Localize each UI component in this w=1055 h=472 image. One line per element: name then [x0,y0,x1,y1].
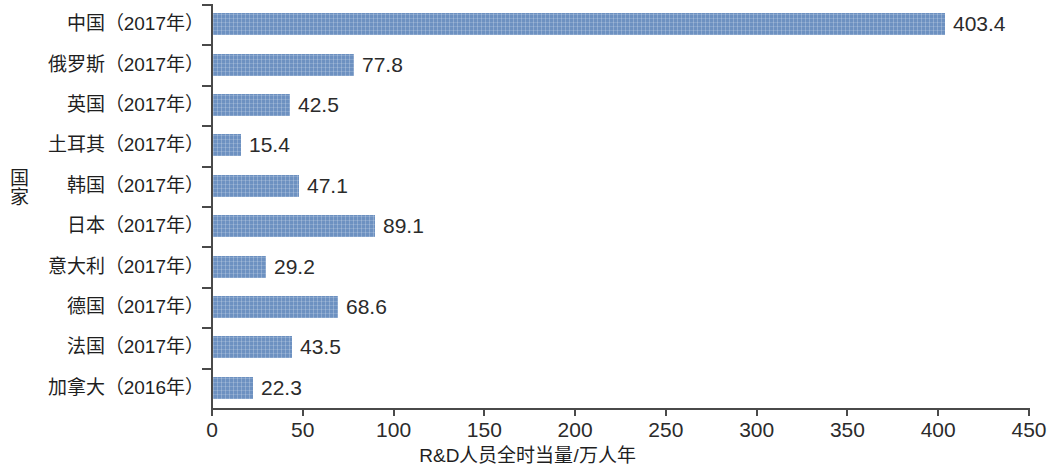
y-axis-tick [202,4,211,6]
y-axis-tick [202,327,211,329]
x-axis-tick [937,408,939,416]
bar [213,215,375,237]
bar-value-label: 68.6 [346,296,387,318]
bar-value-label: 42.5 [298,94,339,116]
category-label: 英国（2017年） [24,94,204,116]
bar [213,336,292,358]
x-axis-tick-label: 100 [376,418,411,442]
category-label: 德国（2017年） [24,296,204,318]
x-axis-tick [302,408,304,416]
x-axis-tick-label: 400 [921,418,956,442]
x-axis-tick-label: 150 [467,418,502,442]
bar-value-label: 89.1 [383,215,424,237]
category-label: 土耳其（2017年） [24,134,204,156]
bar [213,377,253,399]
bar [213,175,299,197]
category-label: 加拿大（2016年） [24,377,204,399]
bar-value-label: 15.4 [249,134,290,156]
x-axis-tick-label: 250 [648,418,683,442]
y-axis-tick [202,246,211,248]
category-label: 意大利（2017年） [24,256,204,278]
bar [213,94,290,116]
bar [213,256,266,278]
category-label: 法国（2017年） [24,336,204,358]
x-axis-tick-label: 300 [739,418,774,442]
x-axis-tick [846,408,848,416]
category-label: 俄罗斯（2017年） [24,54,204,76]
x-axis-tick [665,408,667,416]
y-axis-tick [202,85,211,87]
x-axis-tick-label: 200 [558,418,593,442]
x-axis-tick [483,408,485,416]
x-axis-tick [211,408,213,416]
bar [213,134,241,156]
x-axis-tick [1028,408,1030,416]
category-label: 中国（2017年） [24,13,204,35]
bar-value-label: 29.2 [274,256,315,278]
category-label: 日本（2017年） [24,215,204,237]
y-axis-tick [202,44,211,46]
x-axis-tick-label: 450 [1011,418,1046,442]
x-axis-tick-label: 0 [206,418,218,442]
category-label-column: 中国（2017年）俄罗斯（2017年）英国（2017年）土耳其（2017年）韩国… [24,4,204,408]
y-axis-tick [202,125,211,127]
y-axis-tick [202,287,211,289]
x-axis-tick [756,408,758,416]
bar-value-label: 47.1 [307,175,348,197]
x-axis-tick-label: 50 [291,418,314,442]
bar [213,13,945,35]
bar-value-label: 43.5 [300,336,341,358]
y-axis-tick [202,166,211,168]
x-axis-tick [393,408,395,416]
x-axis-title: R&D人员全时当量/万人年 [0,444,1055,468]
bar-value-label: 22.3 [261,377,302,399]
bar-chart: 国家 中国（2017年）俄罗斯（2017年）英国（2017年）土耳其（2017年… [0,0,1055,472]
y-axis-tick [202,206,211,208]
plot-area: 050100150200250300350400450403.477.842.5… [211,4,1028,408]
category-label: 韩国（2017年） [24,175,204,197]
bar [213,296,338,318]
bar-value-label: 77.8 [362,54,403,76]
x-axis-tick-label: 350 [830,418,865,442]
x-axis-line [211,408,1029,410]
x-axis-tick [574,408,576,416]
y-axis-tick [202,368,211,370]
bar-value-label: 403.4 [953,13,1006,35]
bar [213,54,354,76]
